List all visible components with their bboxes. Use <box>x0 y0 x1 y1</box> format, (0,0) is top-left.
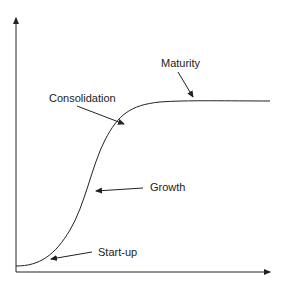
label-maturity: Maturity <box>161 58 200 69</box>
maturity-arrow <box>178 72 193 97</box>
label-startup: Start-up <box>98 247 137 258</box>
label-growth: Growth <box>150 182 185 193</box>
startup-arrow <box>51 252 92 259</box>
s-curve <box>16 101 270 266</box>
consolidation-arrow <box>77 106 124 124</box>
growth-arrow <box>96 188 143 191</box>
s-curve-diagram <box>0 0 286 292</box>
label-consolidation: Consolidation <box>49 93 116 104</box>
